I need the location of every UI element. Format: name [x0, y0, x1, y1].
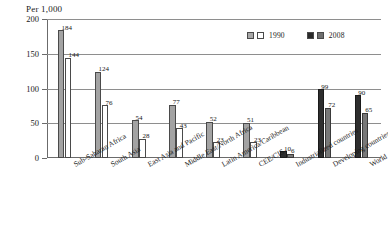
- x-axis-label: Developing countries: [331, 161, 336, 169]
- x-axis-labels: Sub-Saharan AfricaSouth AsiaEast Asia an…: [0, 0, 388, 226]
- x-axis-label: Industrialized countries: [294, 161, 299, 169]
- chart-figure: Per 1,000 050100150200 1990 2008 1841441…: [0, 0, 388, 226]
- x-axis-label: Latin America/Caribbean: [220, 161, 225, 169]
- x-axis-label: CEE/CIS: [257, 161, 262, 169]
- x-axis-label: World: [368, 161, 373, 169]
- x-axis-label: Middle East/North Africa: [183, 161, 188, 169]
- x-axis-label: Sub-Saharan Africa: [72, 161, 77, 169]
- x-axis-label: East Asia and Pacific: [146, 161, 151, 169]
- x-axis-label: South Asia: [109, 161, 114, 169]
